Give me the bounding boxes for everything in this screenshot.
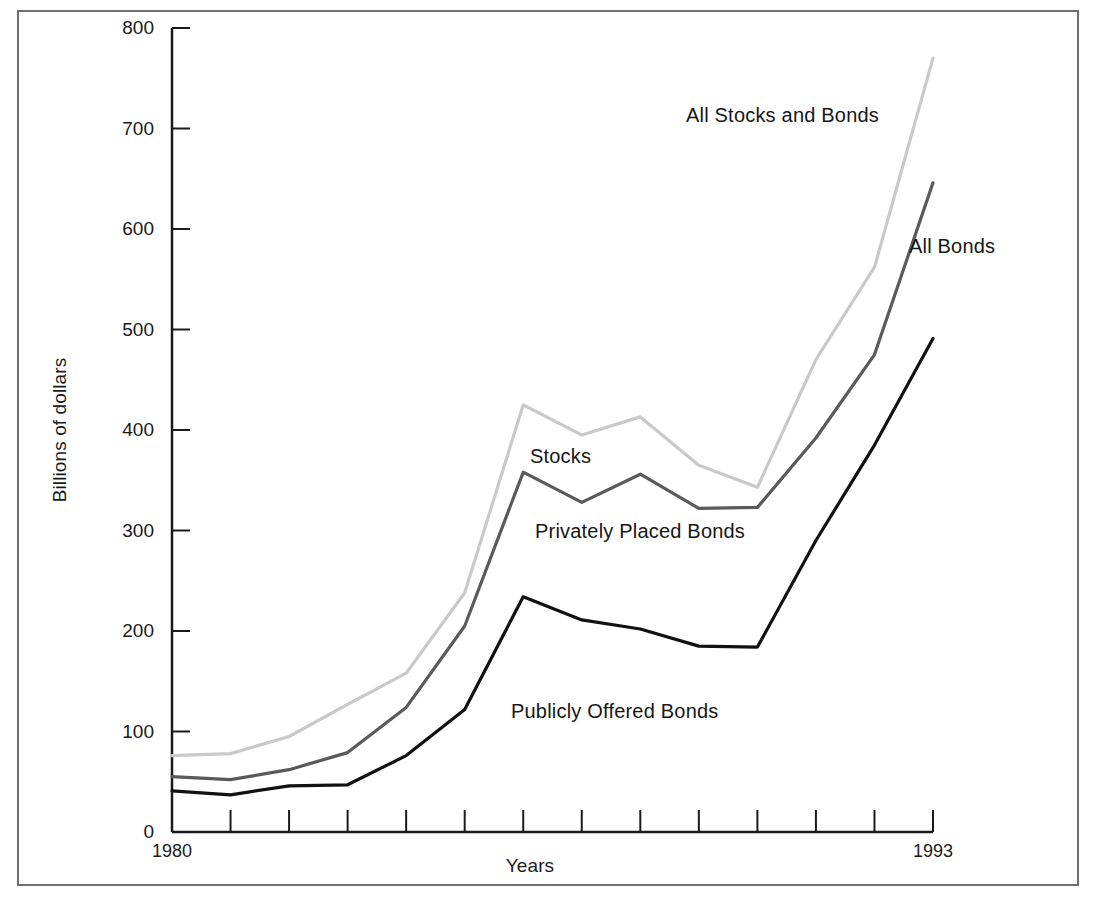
y-tick-label: 100 xyxy=(98,721,154,743)
y-tick-label: 200 xyxy=(98,620,154,642)
x-tick-label: 1993 xyxy=(913,841,953,862)
annotation-all-bonds: All Bonds xyxy=(909,235,995,258)
x-axis-title: Years xyxy=(506,855,554,877)
series-lines-group xyxy=(172,58,933,795)
y-axis-title: Billions of dollars xyxy=(49,358,71,502)
y-axis-ticks xyxy=(172,28,190,832)
y-tick-label: 0 xyxy=(98,821,154,843)
x-tick-label: 1980 xyxy=(152,841,192,862)
series-line-all-bonds xyxy=(172,183,933,780)
annotation-publicly-offered-bonds: Publicly Offered Bonds xyxy=(511,700,718,723)
annotation-all-stocks-and-bonds: All Stocks and Bonds xyxy=(686,104,879,127)
y-tick-label: 400 xyxy=(98,419,154,441)
y-tick-label: 300 xyxy=(98,520,154,542)
y-tick-label: 800 xyxy=(98,17,154,39)
annotation-privately-placed-bonds: Privately Placed Bonds xyxy=(535,520,745,543)
chart-figure: 8007006005004003002001000 19801993 Billi… xyxy=(0,0,1099,907)
y-tick-label: 600 xyxy=(98,218,154,240)
y-tick-label: 500 xyxy=(98,319,154,341)
annotation-stocks: Stocks xyxy=(530,445,591,468)
series-line-publicly-offered-bonds xyxy=(172,339,933,795)
x-axis-ticks xyxy=(172,810,933,832)
series-line-all-stocks-and-bonds xyxy=(172,58,933,756)
y-tick-label: 700 xyxy=(98,118,154,140)
